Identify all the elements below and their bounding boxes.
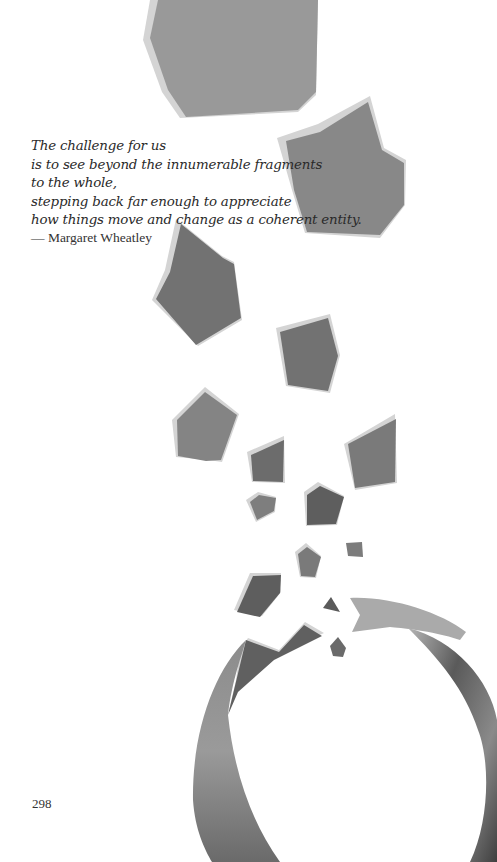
fragment-large-top [143,0,318,118]
fragments-illustration [0,0,497,862]
fragment-small-7 [346,542,363,557]
epigraph-quote: The challenge for us is to see beyond th… [31,137,362,230]
quote-line: to the whole, [31,174,362,193]
quote-line: is to see beyond the innumerable fragmen… [31,156,362,175]
fragment-small-3 [344,414,397,490]
fragment-small-6 [295,543,321,578]
quote-line: The challenge for us [31,137,362,156]
page-number: 298 [32,796,52,812]
broken-ring [193,598,497,862]
fragment-small-8 [234,573,281,617]
fragment-small-5 [304,482,344,526]
fragment-small-4 [246,492,276,522]
fragment-small-2 [247,436,285,483]
fragment-small-10 [330,637,346,657]
fragment-small-9 [323,597,340,612]
quote-line: stepping back far enough to appreciate [31,193,362,212]
quote-line: how things move and change as a coherent… [31,211,362,230]
quote-attribution: — Margaret Wheatley [31,230,152,246]
fragment-middle [276,314,340,393]
fragment-small-1 [172,387,239,462]
fragment-left-tall [152,219,242,346]
